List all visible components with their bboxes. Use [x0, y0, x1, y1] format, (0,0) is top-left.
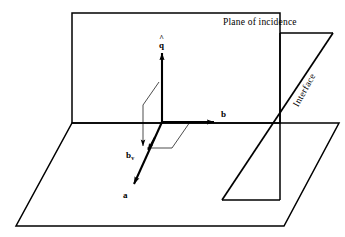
- vector-a: [134, 122, 162, 184]
- plane-of-incidence-outline: [72, 13, 280, 123]
- interface-plane-slant-edge: [222, 33, 333, 200]
- base-parallelogram: [147, 122, 190, 148]
- q-hat-glyph: q: [159, 41, 164, 50]
- figure-root: Plane of incidence Interface q b bv a: [0, 0, 345, 237]
- plane-of-incidence: [72, 13, 280, 123]
- construction-lines: [143, 82, 190, 148]
- vector-b-label: b: [221, 110, 226, 119]
- vector-arrows: [134, 53, 214, 184]
- diagram-canvas: [0, 0, 345, 237]
- plane-of-incidence-label: Plane of incidence: [223, 18, 297, 28]
- q-projection-diagonal: [143, 82, 159, 105]
- b-v-subscript-glyph: v: [131, 155, 134, 161]
- vector-q-hat-label: q: [159, 41, 164, 50]
- vector-b-v-label: bv: [126, 151, 134, 160]
- interface-plane: [222, 33, 333, 200]
- vector-a-label: a: [123, 191, 128, 200]
- horizontal-plane: [16, 123, 339, 226]
- horizontal-plane-outline: [16, 123, 339, 226]
